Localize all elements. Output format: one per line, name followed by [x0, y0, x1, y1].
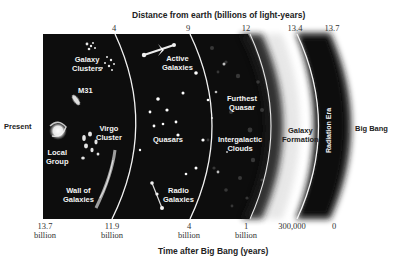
big-bang-label: Big Bang — [355, 124, 388, 133]
top-tick-9: 9 — [182, 24, 194, 33]
radiation-era-label: Radiation Era — [324, 106, 333, 156]
galaxy-formation-label: Galaxy Formation — [282, 126, 319, 144]
bottom-tick-13-7-billion: 13.7 billion — [33, 222, 57, 240]
active-galaxies-label: Active Galaxies — [162, 54, 193, 72]
quasars-label: Quasars — [153, 135, 183, 144]
wall-of-galaxies-label: Wall of Galaxies — [63, 186, 94, 204]
m31-label: M31 — [78, 86, 93, 95]
bottom-tick-300000: 300,000 — [278, 222, 306, 231]
top-tick-4: 4 — [108, 24, 120, 33]
virgo-cluster-label: Virgo Cluster — [96, 124, 122, 142]
bottom-tick-4-billion: 4 billion — [177, 222, 201, 240]
local-group-label: Local Group — [46, 148, 69, 166]
cosmic-timeline-artwork — [0, 0, 400, 260]
top-tick-12: 12 — [239, 24, 253, 33]
present-label: Present — [4, 122, 32, 131]
top-tick-13-4: 13.4 — [286, 24, 304, 33]
intergalactic-clouds-label: Intergalactic Clouds — [218, 135, 262, 153]
radio-galaxies-label: Radio Galaxies — [163, 186, 194, 204]
bottom-tick-1-billion: 1 billion — [234, 222, 258, 240]
bottom-tick-11-9-billion: 11.9 billion — [100, 222, 124, 240]
top-tick-13-7: 13.7 — [323, 24, 341, 33]
galaxy-clusters-label: Galaxy Clusters — [72, 55, 102, 73]
furthest-quasar-label: Furthest Quasar — [227, 94, 257, 112]
top-axis-title: Distance from earth (billions of light-y… — [132, 10, 305, 20]
bottom-axis-title: Time after Big Bang (years) — [158, 246, 268, 256]
bottom-tick-0: 0 — [328, 222, 340, 231]
